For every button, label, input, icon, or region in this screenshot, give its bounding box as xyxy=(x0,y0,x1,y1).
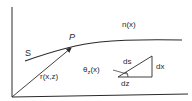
angle-leader-line xyxy=(113,70,127,74)
label-theta: θz(x) xyxy=(83,65,100,75)
ray-path-diagram: S P n(x) r(x,z) θz(x) ds dx dz xyxy=(0,0,192,101)
label-n: n(x) xyxy=(122,20,136,29)
angle-arc xyxy=(126,72,128,77)
label-s: S xyxy=(25,48,31,58)
ray-curve-s xyxy=(25,40,182,61)
label-r: r(x,z) xyxy=(40,72,59,81)
label-dx: dx xyxy=(156,62,164,71)
x-axis xyxy=(12,94,188,97)
label-ds: ds xyxy=(123,57,131,66)
label-p: P xyxy=(69,32,75,42)
label-dz: dz xyxy=(121,79,129,88)
